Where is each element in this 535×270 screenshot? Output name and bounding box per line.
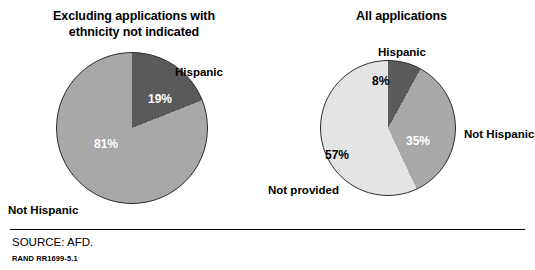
chart-panel-left: Excluding applications with ethnicity no… (0, 0, 268, 235)
report-id: RAND RR1699-5.1 (12, 254, 78, 263)
value-not-provided-right: 57% (325, 148, 349, 162)
value-hispanic-left: 19% (148, 92, 172, 106)
chart-title-right-line1: All applications (268, 8, 535, 24)
value-hispanic-right: 8% (372, 74, 389, 88)
source-note: SOURCE: AFD. (12, 236, 93, 248)
label-hispanic-left: Hispanic (175, 66, 223, 78)
label-not-hispanic-right: Not Hispanic (464, 128, 534, 140)
chart-title-left-line1: Excluding applications with (0, 8, 268, 24)
chart-title-left: Excluding applications with ethnicity no… (0, 8, 268, 40)
chart-title-left-line2: ethnicity not indicated (0, 24, 268, 40)
chart-title-right: All applications (268, 8, 535, 24)
label-not-hispanic-left: Not Hispanic (8, 204, 78, 216)
label-hispanic-right: Hispanic (378, 46, 426, 58)
figure-container: Excluding applications with ethnicity no… (0, 0, 535, 270)
label-not-provided-right: Not provided (268, 184, 339, 196)
value-not-hispanic-right: 35% (406, 134, 430, 148)
chart-panel-right: All applications Hispanic Not Hispanic N… (268, 0, 535, 235)
value-not-hispanic-left: 81% (94, 137, 118, 151)
footer-divider (10, 229, 525, 230)
